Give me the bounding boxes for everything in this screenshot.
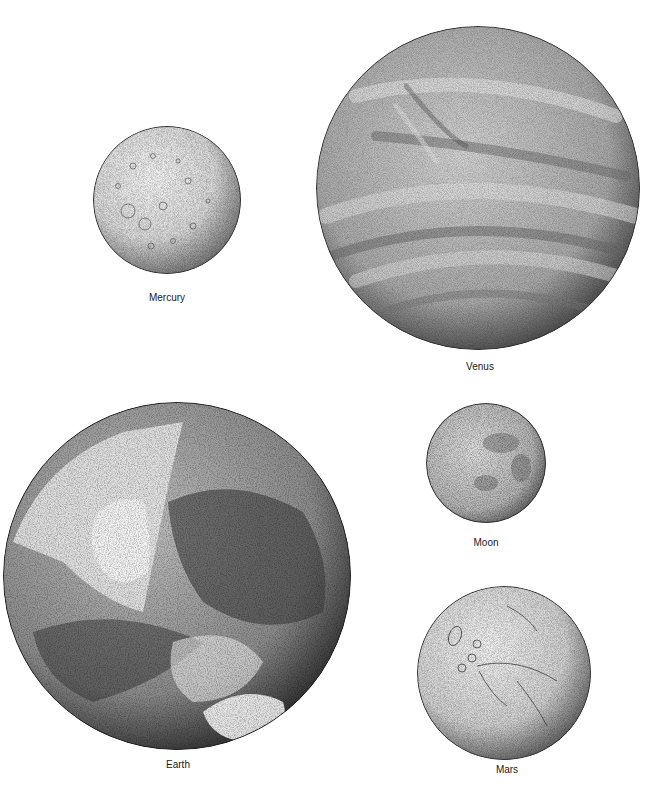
mars-illustration: [417, 586, 591, 760]
venus-label: Venus: [430, 361, 530, 372]
venus-illustration: [316, 26, 640, 350]
mercury-illustration: [93, 126, 241, 274]
earth-illustration: [3, 402, 351, 750]
mercury-label: Mercury: [117, 292, 217, 303]
mars-label: Mars: [457, 764, 557, 775]
moon-illustration: [426, 403, 546, 523]
moon-label: Moon: [436, 537, 536, 548]
earth-label: Earth: [128, 759, 228, 770]
